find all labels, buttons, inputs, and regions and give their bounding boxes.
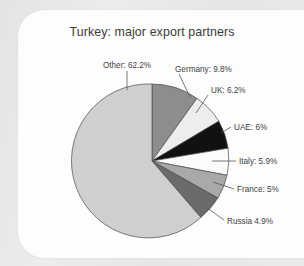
pie-label-other: Other: 62.2% xyxy=(103,61,151,70)
leader-line-russia xyxy=(206,207,224,220)
pie-label-russia: Russia 4.9% xyxy=(227,217,273,226)
pie-slices xyxy=(71,84,228,238)
pie-chart-svg: Turkey: major export partners xyxy=(18,10,304,258)
pie-label-italy: Italy: 5.9% xyxy=(239,157,277,166)
pie-label-uk: UK: 6.2% xyxy=(211,86,246,95)
chart-card: Turkey: major export partners xyxy=(18,10,304,258)
pie-chart: Turkey: major export partners xyxy=(18,10,304,258)
pie-label-germany: Germany: 9.8% xyxy=(175,65,232,74)
pie-label-uae: UAE: 6% xyxy=(234,123,267,132)
chart-title: Turkey: major export partners xyxy=(70,25,235,39)
pie-label-france: France: 5% xyxy=(237,185,279,194)
